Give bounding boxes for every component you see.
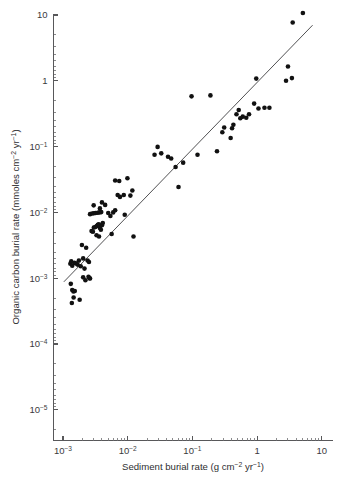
- data-point: [130, 188, 135, 193]
- data-point: [72, 289, 77, 294]
- data-point: [169, 156, 174, 161]
- data-point: [228, 136, 233, 141]
- data-point: [117, 179, 122, 184]
- x-tick-label: 10: [317, 445, 328, 456]
- data-point: [109, 232, 114, 237]
- data-point: [301, 11, 306, 16]
- data-point: [91, 229, 96, 234]
- data-point: [91, 203, 96, 208]
- data-point: [70, 301, 75, 306]
- data-point: [113, 208, 118, 213]
- data-point: [108, 214, 113, 219]
- data-point: [159, 151, 164, 156]
- data-point: [152, 153, 157, 158]
- data-point: [87, 260, 92, 265]
- data-point: [220, 130, 225, 135]
- data-point: [88, 276, 93, 281]
- data-point: [262, 105, 267, 110]
- y-tick-label: 1: [42, 75, 47, 86]
- plot-background: [0, 0, 348, 478]
- data-point: [122, 212, 127, 217]
- data-point: [290, 20, 295, 25]
- data-point: [254, 76, 259, 81]
- data-point: [81, 256, 86, 261]
- data-point: [69, 282, 74, 287]
- data-point: [97, 234, 102, 239]
- data-point: [181, 160, 186, 165]
- data-point: [83, 278, 88, 283]
- data-point: [284, 79, 289, 84]
- data-point: [290, 76, 295, 81]
- data-point: [84, 245, 89, 250]
- data-point: [155, 145, 160, 150]
- x-tick-label: 1: [254, 445, 259, 456]
- data-point: [252, 101, 257, 106]
- data-point: [176, 185, 181, 190]
- data-point: [286, 64, 291, 69]
- y-tick-label: 10: [37, 9, 48, 20]
- data-point: [247, 112, 252, 117]
- data-point: [267, 105, 272, 110]
- data-point: [103, 203, 108, 208]
- data-point: [208, 93, 213, 98]
- data-point: [121, 193, 126, 198]
- data-point: [77, 258, 82, 263]
- data-point: [215, 149, 220, 154]
- data-point: [131, 234, 136, 239]
- data-point: [256, 106, 261, 111]
- data-point: [98, 206, 103, 211]
- data-point: [71, 295, 76, 300]
- data-point: [99, 227, 104, 232]
- data-point: [82, 266, 87, 271]
- data-point: [173, 165, 178, 170]
- data-point: [231, 122, 236, 127]
- data-point: [234, 112, 239, 117]
- data-point: [222, 125, 227, 130]
- data-point: [195, 153, 200, 158]
- data-point: [128, 193, 133, 198]
- data-point: [189, 94, 194, 99]
- data-point: [236, 108, 241, 113]
- data-point: [77, 297, 82, 302]
- scatter-plot: 10−310−210−1110 10−510−410−310−210−1110 …: [0, 0, 348, 478]
- x-axis-title: Sediment burial rate (g cm−2 yr−1): [122, 461, 264, 473]
- data-point: [100, 221, 105, 226]
- data-point: [113, 178, 118, 183]
- data-point: [125, 176, 130, 181]
- data-point: [80, 243, 85, 248]
- figure-container: 10−310−210−1110 10−510−410−310−210−1110 …: [0, 0, 348, 478]
